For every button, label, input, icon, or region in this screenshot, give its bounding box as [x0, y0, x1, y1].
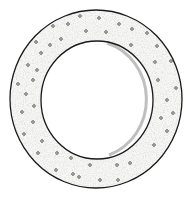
ring-illustration: Hand-drawn stippled ring (annular disc) …: [0, 0, 190, 198]
ring-body: [10, 10, 182, 188]
inner-edge: [41, 41, 153, 159]
ring-stipple: [10, 10, 182, 188]
ring-drawing: [0, 0, 190, 198]
